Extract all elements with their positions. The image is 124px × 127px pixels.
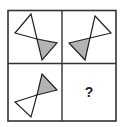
gray-triangle (69, 38, 90, 60)
cell-top-right-figure (69, 16, 111, 60)
answer-question-mark: ? (62, 63, 116, 121)
cell-bottom-left-figure (15, 74, 57, 117)
white-triangle (90, 16, 111, 38)
gray-triangle (37, 74, 57, 95)
cell-top-left-figure (15, 14, 57, 60)
gray-triangle (37, 39, 57, 60)
white-triangle (15, 14, 37, 39)
white-triangle (15, 95, 37, 117)
